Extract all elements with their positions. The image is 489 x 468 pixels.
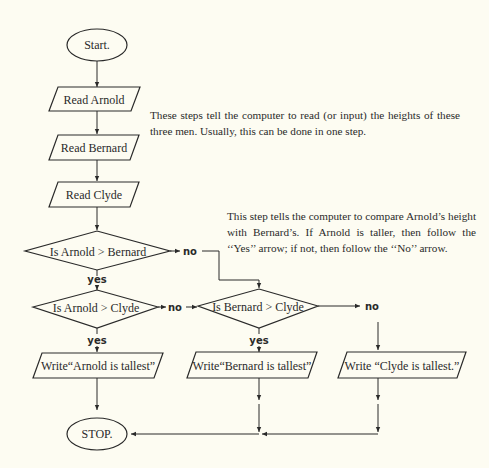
decision-bc-label: Is Bernard > Clyde	[212, 300, 304, 314]
decision-bernard-clyde: Is Bernard > Clyde	[198, 289, 318, 328]
ac-yes-label: yes	[87, 335, 106, 346]
compare-step-annotation: This step tells the computer to compare …	[227, 208, 476, 256]
write-clyde-output: Write “Clyde is tallest.”	[338, 352, 466, 378]
write-arnold-output: Write“Arnold is tallest”	[33, 353, 163, 378]
ac-no-label: no	[168, 302, 182, 313]
read-bernard-label: Read Bernard	[61, 141, 127, 155]
stop-label: STOP.	[82, 427, 113, 441]
stop-terminal: STOP.	[67, 418, 127, 450]
decision-arnold-bernard: Is Arnold > Bernard	[25, 231, 170, 270]
decision-arnold-clyde: Is Arnold > Clyde	[33, 290, 158, 328]
read-arnold-label: Read Arnold	[64, 93, 125, 107]
ab-yes-label: yes	[87, 274, 106, 285]
decision-ab-label: Is Arnold > Bernard	[50, 245, 146, 259]
read-steps-annotation: These steps tell the computer to read (o…	[150, 107, 460, 139]
write-bernard-label: Write“Bernard is tallest”	[193, 359, 312, 373]
decision-ac-label: Is Arnold > Clyde	[53, 301, 139, 315]
read-arnold-input: Read Arnold	[49, 87, 140, 111]
bc-no-label: no	[365, 301, 379, 312]
write-bernard-output: Write“Bernard is tallest”	[187, 352, 317, 378]
write-clyde-label: Write “Clyde is tallest.”	[345, 359, 460, 373]
ab-no-label: no	[183, 246, 197, 257]
read-bernard-input: Read Bernard	[49, 135, 139, 160]
start-terminal: Start.	[67, 29, 127, 61]
read-clyde-label: Read Clyde	[66, 188, 122, 202]
bc-yes-label: yes	[249, 335, 268, 346]
start-label: Start.	[84, 38, 110, 52]
write-arnold-label: Write“Arnold is tallest”	[41, 359, 155, 373]
read-clyde-input: Read Clyde	[49, 182, 139, 207]
edge-ab-no-to-decision-bc	[202, 251, 259, 288]
